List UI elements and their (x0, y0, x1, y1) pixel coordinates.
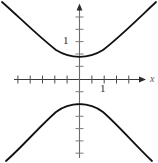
y-axis-arrowhead (77, 4, 83, 11)
y-axis-tick-label-one: 1 (63, 35, 69, 46)
hyperbola-figure: 1 1 x (0, 0, 158, 163)
x-axis-arrowhead (139, 77, 146, 83)
x-axis-tick-label-one: 1 (100, 83, 106, 94)
x-axis-label: x (150, 74, 154, 84)
plot-canvas (0, 0, 158, 163)
